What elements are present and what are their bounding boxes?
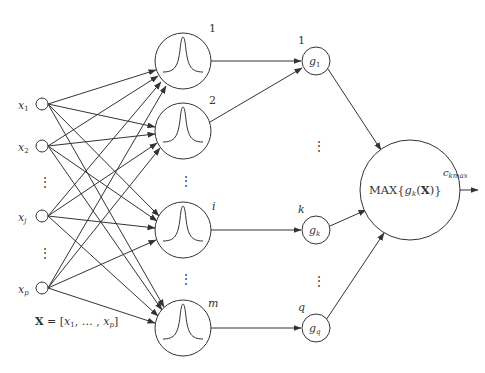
rbf-node-m: m xyxy=(155,297,218,356)
rbf-node-i: i xyxy=(155,200,216,258)
output-node-g1: g1 1 xyxy=(298,34,330,75)
rbf-node-2: 2 xyxy=(155,94,216,159)
max-node: MAX{gk(X)} ckmax xyxy=(360,140,468,240)
hidden-ellipsis-1: ⋮ xyxy=(180,174,192,188)
hidden-output-connections xyxy=(210,61,302,328)
input-label: xp xyxy=(18,283,29,297)
hidden-layer: 1 2 ⋮ i ⋮ m xyxy=(155,22,218,356)
input-node-xj: xj xyxy=(18,210,48,225)
svg-text:m: m xyxy=(208,297,218,310)
svg-text:i: i xyxy=(212,200,216,213)
rbf-node-1: 1 xyxy=(155,22,216,89)
input-label: xj xyxy=(18,211,27,225)
svg-text:1: 1 xyxy=(298,34,305,47)
output-ellipsis-1: ⋮ xyxy=(313,139,325,153)
input-node-xp: xp xyxy=(18,282,48,297)
svg-text:2: 2 xyxy=(209,94,216,107)
input-ellipsis-2: ⋮ xyxy=(39,246,51,260)
output-node-gk: gk k xyxy=(298,203,330,244)
input-label: x1 xyxy=(18,99,29,113)
input-node-x1: x1 xyxy=(18,98,48,113)
rbf-network-diagram: x1 x2 ⋮ xj ⋮ xp X = [x1, … , xp] 1 2 ⋮ xyxy=(0,0,485,373)
input-ellipsis-1: ⋮ xyxy=(39,175,51,189)
svg-text:1: 1 xyxy=(209,22,216,35)
svg-text:MAX{gk(X)}: MAX{gk(X)} xyxy=(369,183,441,198)
input-vector-label: X = [x1, … , xp] xyxy=(35,315,118,329)
hidden-ellipsis-2: ⋮ xyxy=(180,272,192,286)
output-ellipsis-2: ⋮ xyxy=(313,274,325,288)
input-node-x2: x2 xyxy=(18,140,48,155)
input-label: x2 xyxy=(18,141,29,155)
output-node-gq: gq q xyxy=(298,301,330,342)
input-hidden-connections xyxy=(48,70,166,323)
svg-text:q: q xyxy=(298,301,305,314)
output-layer: g1 1 ⋮ gk k ⋮ gq q xyxy=(298,34,330,342)
svg-text:k: k xyxy=(298,203,305,216)
